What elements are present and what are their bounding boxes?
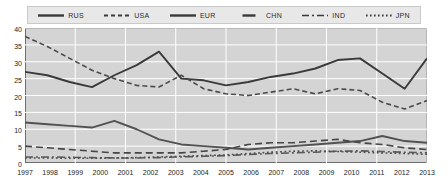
plot-series-svg (25, 28, 427, 163)
y-axis-tick-label: 10 (2, 127, 22, 134)
x-axis-tick-label: 1997 (17, 169, 33, 176)
x-axis-labels: 1997199819992000200120022003200420052006… (25, 166, 427, 182)
short-line-swatch (236, 11, 262, 20)
legend-item-chn[interactable]: CHN (236, 11, 282, 20)
y-axis-tick-label: 15 (2, 110, 22, 117)
x-axis-tick-label: 2009 (319, 169, 335, 176)
x-axis-tick-label: 1998 (42, 169, 58, 176)
legend-label: EUR (200, 12, 216, 19)
plot-wrapper: 0510152025303540 19971998199920002001200… (0, 26, 448, 183)
legend-label: USA (134, 12, 149, 19)
legend-label: CHN (266, 12, 282, 19)
y-axis-tick-label: 25 (2, 77, 22, 84)
x-axis-tick-label: 2005 (218, 169, 234, 176)
dotted-line-swatch (366, 11, 392, 20)
x-axis-tick-label: 2004 (193, 169, 209, 176)
legend-item-eur[interactable]: EUR (170, 11, 216, 20)
x-axis-tick-label: 2010 (344, 169, 360, 176)
legend-item-usa[interactable]: USA (104, 11, 149, 20)
y-axis-tick-label: 35 (2, 43, 22, 50)
legend-label: IND (332, 12, 345, 19)
x-axis-tick-label: 2007 (268, 169, 284, 176)
x-axis-tick-label: 2008 (294, 169, 310, 176)
x-axis-tick-label: 2001 (118, 169, 134, 176)
x-axis-tick-label: 2013 (419, 169, 435, 176)
x-axis-tick-label: 2003 (168, 169, 184, 176)
x-axis-tick-label: 2011 (369, 169, 384, 176)
dash-dot-line-swatch (302, 11, 328, 20)
x-axis-tick-label: 2000 (93, 169, 109, 176)
legend-label: JPN (396, 12, 410, 19)
legend-item-ind[interactable]: IND (302, 11, 345, 20)
y-axis-tick-label: 5 (2, 144, 22, 151)
chart-legend: RUSUSAEURCHNINDJPN (27, 6, 421, 24)
solid-line-swatch (170, 11, 196, 20)
y-axis-tick-label: 40 (2, 26, 22, 33)
y-axis-tick-label: 0 (2, 161, 22, 168)
x-axis-tick-label: 1999 (67, 169, 83, 176)
x-axis-tick-label: 2002 (143, 169, 159, 176)
dashed-line-swatch (104, 11, 130, 20)
legend-item-jpn[interactable]: JPN (366, 11, 410, 20)
y-axis-tick-label: 30 (2, 60, 22, 67)
line-chart: RUSUSAEURCHNINDJPN 0510152025303540 1997… (0, 0, 448, 183)
legend-item-rus[interactable]: RUS (38, 11, 84, 20)
solid-line-swatch (38, 11, 64, 20)
legend-label: RUS (68, 12, 84, 19)
x-axis-tick-label: 2006 (243, 169, 259, 176)
y-axis-tick-label: 20 (2, 94, 22, 101)
y-axis-labels: 0510152025303540 (0, 28, 22, 163)
x-axis-tick-label: 2012 (394, 169, 410, 176)
